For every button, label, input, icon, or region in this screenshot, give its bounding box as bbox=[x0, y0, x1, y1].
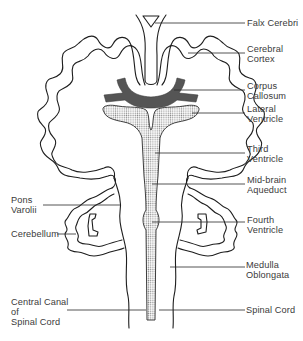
label-corpus-callosum: Corpus Callosum bbox=[247, 81, 286, 101]
label-third-ventricle: Third Ventricle bbox=[247, 144, 283, 164]
label-mid-brain-aqueduct: Mid-brain Aqueduct bbox=[247, 175, 287, 195]
corpus-callosum-shape bbox=[104, 78, 198, 108]
label-falx-cerebri: Falx Cerebri bbox=[247, 18, 298, 28]
label-medulla-oblongata: Medulla Oblongata bbox=[246, 260, 289, 280]
cerebellum-left-shape bbox=[65, 188, 124, 256]
label-fourth-ventricle: Fourth Ventricle bbox=[247, 215, 283, 235]
falx-cerebri-shape bbox=[136, 15, 166, 85]
label-lateral-ventricle: Lateral Ventricle bbox=[247, 104, 283, 124]
label-cerebellum: Cerebellum bbox=[11, 229, 59, 239]
label-cerebral-cortex: Cerebral Cortex bbox=[247, 44, 283, 64]
ventricle-system-shape bbox=[103, 105, 199, 320]
label-pons-varolii: Pons Varolii bbox=[11, 195, 37, 215]
label-spinal-cord: Spinal Cord bbox=[246, 305, 295, 315]
label-central-canal: Central Canal of Spinal Cord bbox=[11, 297, 68, 327]
